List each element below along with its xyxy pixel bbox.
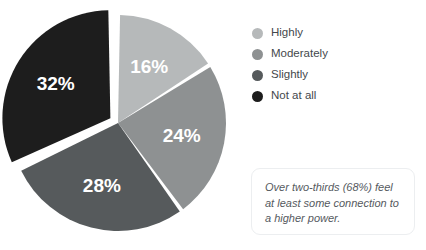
circle-swatch-icon — [252, 28, 263, 39]
legend-item-label: Highly — [271, 27, 303, 39]
pie-slice-label: 16% — [130, 56, 168, 77]
circle-swatch-icon — [252, 91, 263, 102]
legend-item-moderately[interactable]: Moderately — [252, 45, 412, 63]
legend-item-label: Slightly — [271, 69, 308, 81]
circle-swatch-icon — [252, 70, 263, 81]
pie-slice-label: 28% — [83, 175, 121, 196]
chart-legend: Highly Moderately Slightly Not at all — [252, 24, 412, 108]
circle-swatch-icon — [252, 49, 263, 60]
callout-box: Over two-thirds (68%) feel at least some… — [251, 168, 415, 235]
legend-item-label: Not at all — [271, 90, 316, 102]
legend-item-highly[interactable]: Highly — [252, 24, 412, 42]
pie-chart-area: 16%24%28%32% — [0, 0, 240, 250]
pie-chart-svg: 16%24%28%32% — [0, 0, 240, 250]
legend-item-not-at-all[interactable]: Not at all — [252, 87, 412, 105]
callout-text: Over two-thirds (68%) feel at least some… — [265, 180, 401, 227]
pie-slice-label: 24% — [163, 125, 201, 146]
pie-slice-group — [2, 10, 226, 231]
pie-slice-label: 32% — [37, 73, 75, 94]
legend-item-slightly[interactable]: Slightly — [252, 66, 412, 84]
legend-item-label: Moderately — [271, 48, 328, 60]
